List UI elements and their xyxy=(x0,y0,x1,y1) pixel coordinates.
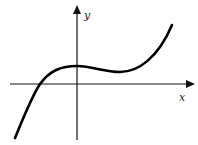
function-graph: x y xyxy=(0,0,198,145)
y-axis-label: y xyxy=(83,9,91,22)
x-axis-label: x xyxy=(179,91,186,104)
y-axis-arrow-icon xyxy=(73,5,81,14)
cubic-curve xyxy=(15,25,172,138)
x-axis-arrow-icon xyxy=(186,80,195,88)
